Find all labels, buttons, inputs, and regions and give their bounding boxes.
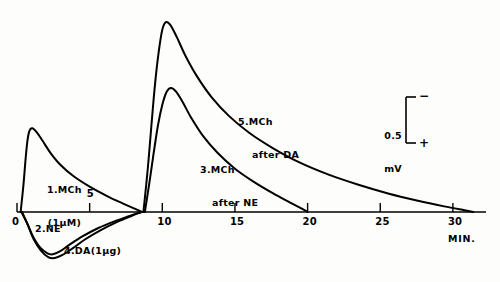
scale-bar-value: 0.5 xyxy=(368,130,402,141)
scale-bar-negative-sign: − xyxy=(419,89,429,103)
x-axis-tick-label: 20 xyxy=(303,216,317,227)
curve-label-1-line1: 1.MCh xyxy=(47,184,82,195)
x-axis-tick-label: 15 xyxy=(230,216,244,227)
scale-bar-positive-sign: + xyxy=(419,136,429,150)
x-axis-name: MIN. xyxy=(448,233,476,244)
x-axis-tick-label: 25 xyxy=(375,216,389,227)
curve-label-5-mch-after-da: 5.MCh after DA xyxy=(238,94,299,182)
x-axis-tick-label: 10 xyxy=(157,216,171,227)
x-axis-tick-label: 5 xyxy=(87,188,94,199)
curve-5 xyxy=(143,22,473,212)
figure-panel: 1.MCh (1μM) 2.NE 3.MCh after NE 4.DA(1μg… xyxy=(0,0,500,282)
x-axis-tick-label: 30 xyxy=(448,216,462,227)
curve-label-4-da: 4.DA(1μg) xyxy=(64,245,121,256)
curve-label-1-mch: 1.MCh (1μM) xyxy=(47,162,82,250)
curve-label-2-ne: 2.NE xyxy=(35,223,61,234)
curve-label-3-line2: after NE xyxy=(200,197,258,208)
scale-bar-label: 0.5 mV xyxy=(368,108,402,196)
x-axis-tick-label: 0 xyxy=(12,216,19,227)
scale-bar-unit: mV xyxy=(368,163,402,174)
curve-label-5-line1: 5.MCh xyxy=(238,116,299,127)
curve-label-5-line2: after DA xyxy=(238,149,299,160)
scale-bar xyxy=(406,97,416,143)
